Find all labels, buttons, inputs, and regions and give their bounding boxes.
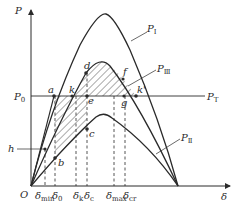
equal-area-criterion-diagram: P δ O P0 PT PⅠ PⅢ PⅡ a b c d e f g k k' …	[0, 0, 239, 212]
p-axis-label: P	[14, 5, 22, 16]
point-label-b: b	[58, 157, 64, 168]
tick-delta-c: δc	[84, 190, 94, 203]
point-label-f: f	[122, 66, 129, 77]
point-label-a: a	[48, 84, 54, 95]
pt-label: PT	[206, 91, 219, 104]
curve-label-p-ii: PⅡ	[180, 132, 193, 145]
point-label-k: k	[69, 84, 75, 95]
point-label-d: d	[84, 60, 90, 71]
curve-label-p-iii: PⅢ	[156, 63, 171, 76]
acceleration-area	[54, 96, 87, 158]
point-label-c: c	[89, 128, 95, 139]
curve-p-ii	[31, 114, 178, 186]
point-label-e: e	[88, 95, 94, 106]
p0-label: P0	[13, 91, 25, 104]
point-label-g: g	[121, 97, 127, 108]
origin-label: O	[20, 189, 28, 200]
curve-label-p-i: PⅠ	[146, 23, 157, 36]
point-label-h: h	[8, 143, 14, 154]
point-label-k-prime: k'	[137, 84, 146, 95]
delta-axis-label: δ	[221, 191, 227, 202]
tick-delta-k: δk	[73, 190, 84, 203]
